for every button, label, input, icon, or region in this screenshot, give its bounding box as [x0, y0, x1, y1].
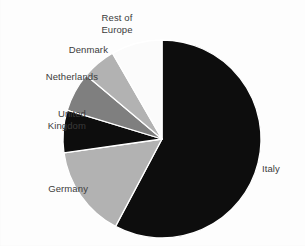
pie-label-germany-text: Germany: [48, 183, 88, 194]
pie-label-netherlands-text: Netherlands: [46, 71, 98, 82]
pie-chart: Rest ofEurope Denmark Netherlands United…: [0, 0, 305, 246]
pie-label-united-kingdom: UnitedKingdom: [14, 108, 86, 131]
pie-label-rest-of-europe: Rest ofEurope: [86, 12, 148, 35]
pie-label-rest-of-europe-line2: Europe: [101, 24, 132, 35]
pie-label-italy-text: Italy: [262, 163, 280, 174]
pie-label-denmark-text: Denmark: [69, 44, 108, 55]
pie-label-rest-of-europe-line1: Rest of: [102, 12, 133, 23]
pie-label-italy: Italy: [262, 163, 302, 175]
pie-label-netherlands: Netherlands: [10, 71, 98, 83]
pie-label-united-kingdom-line1: United: [58, 108, 86, 119]
pie-label-denmark: Denmark: [42, 44, 108, 56]
pie-label-united-kingdom-line2: Kingdom: [48, 120, 86, 131]
pie-label-germany: Germany: [26, 183, 88, 195]
pie-slices: [63, 40, 261, 238]
